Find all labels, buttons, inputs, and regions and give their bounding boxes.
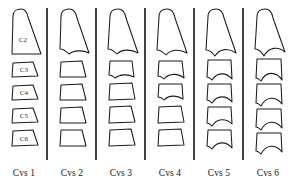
column-cvs-2: [60, 9, 89, 146]
vertebra-shape-c4-cvs4: [158, 84, 183, 100]
column-cvs-5: [206, 9, 236, 149]
vertebra-shape-c4-cvs6: [256, 84, 282, 106]
vertebra-shape-c2-cvs6: [255, 9, 285, 56]
column-cvs-4: [157, 9, 187, 146]
vertebra-shape-c3-cvs2: [60, 61, 86, 77]
vertebra-shape-c5-cvs3: [109, 106, 135, 123]
vertebra-label-c6: C6: [20, 135, 29, 143]
vertebra-shape-c3-cvs3: [109, 61, 134, 78]
vertebra-label-c5: C5: [20, 112, 29, 120]
vertebra-shape-c6-cvs5: [207, 130, 232, 149]
vertebra-shape-c5-cvs6: [256, 109, 282, 130]
vertebra-label-c3: C3: [20, 66, 29, 74]
column-label-cvs-1: Cvs 1: [13, 168, 36, 178]
vertebra-shape-c3-cvs6: [256, 59, 282, 81]
column-cvs-1: C2 C3 C4 C5 C6: [12, 9, 41, 146]
vertebra-shape-c5-cvs4: [158, 106, 184, 123]
cervical-vertebral-stages-figure: C2 C3 C4 C5 C6: [0, 0, 299, 190]
column-label-cvs-2: Cvs 2: [61, 168, 84, 178]
column-label-cvs-5: Cvs 5: [208, 168, 231, 178]
vertebra-shape-c6-cvs4: [158, 129, 184, 146]
column-label-cvs-3: Cvs 3: [110, 168, 133, 178]
column-cvs-3: [108, 9, 138, 146]
vertebra-shape-c6-cvs3: [109, 129, 135, 146]
vertebra-shape-c2-cvs4: [157, 9, 187, 55]
vertebra-shape-c3-cvs5: [207, 60, 232, 80]
vertebra-shape-c5-cvs5: [207, 107, 232, 126]
column-label-cvs-4: Cvs 4: [159, 168, 182, 178]
vertebra-shape-c2-cvs3: [108, 9, 138, 54]
column-cvs-6: [255, 9, 285, 154]
vertebra-shape-c3-cvs4: [158, 61, 184, 79]
figure-canvas: C2 C3 C4 C5 C6: [0, 0, 299, 190]
vertebra-shape-c5-cvs2: [60, 107, 86, 123]
vertebra-shape-c4-cvs5: [207, 84, 232, 103]
vertebra-shape-c6-cvs2: [60, 130, 86, 146]
vertebra-shape-c6-cvs6: [256, 133, 282, 154]
vertebra-shape-c4-cvs3: [109, 83, 135, 100]
vertebra-label-c2: C2: [19, 36, 28, 44]
vertebra-shape-c2-cvs5: [206, 9, 236, 56]
vertebra-shape-c4-cvs2: [60, 84, 86, 100]
column-labels: Cvs 1 Cvs 2 Cvs 3 Cvs 4 Cvs 5 Cvs 6: [13, 168, 280, 178]
vertebra-shape-c2-cvs1: [12, 9, 41, 54]
vertebra-shape-c2-cvs2: [60, 9, 89, 54]
column-label-cvs-6: Cvs 6: [257, 168, 280, 178]
vertebra-label-c4: C4: [20, 89, 29, 97]
